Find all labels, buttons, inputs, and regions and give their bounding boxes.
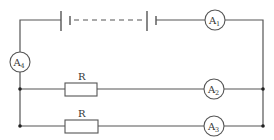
ammeter-a3: A 3 — [204, 116, 224, 136]
junction-right-lower — [261, 124, 265, 128]
lower-branch: R A 3 — [18, 108, 265, 136]
battery — [61, 11, 156, 31]
ammeter-a4-subscript: 4 — [21, 62, 25, 70]
circuit-diagram: A 1 A 4 R A 2 R A 3 — [0, 0, 274, 140]
ammeter-a1-subscript: 1 — [216, 20, 220, 28]
resistor-upper — [65, 83, 97, 96]
ammeter-a2: A 2 — [204, 79, 224, 99]
resistor-lower-label: R — [78, 108, 86, 119]
ammeter-a3-subscript: 3 — [215, 126, 219, 134]
ammeter-a4: A 4 — [10, 52, 30, 72]
ammeter-a1: A 1 — [205, 10, 225, 30]
junction-left-lower — [18, 124, 22, 128]
upper-branch: R A 2 — [18, 71, 265, 99]
resistor-lower — [65, 120, 98, 133]
junction-right-upper — [261, 87, 265, 91]
top-wire — [20, 20, 263, 126]
resistor-upper-label: R — [78, 71, 86, 82]
junction-left-upper — [18, 87, 22, 91]
ammeter-a2-subscript: 2 — [215, 89, 219, 97]
